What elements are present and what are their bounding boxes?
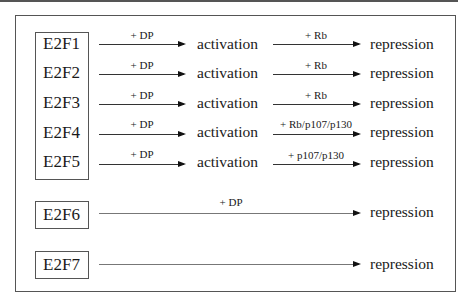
arrow-icon bbox=[99, 44, 184, 45]
arrow-icon bbox=[99, 213, 359, 214]
repression-label: repression bbox=[370, 94, 434, 112]
arrow-icon bbox=[99, 74, 184, 75]
arrow-icon bbox=[273, 134, 359, 135]
arrow-icon bbox=[99, 134, 184, 135]
step1-label: + DP bbox=[112, 148, 172, 160]
step1-label: + DP bbox=[112, 118, 172, 130]
activation-label: activation bbox=[197, 94, 258, 112]
repression-label: repression bbox=[370, 123, 434, 141]
repression-label: repression bbox=[370, 153, 434, 171]
arrow-icon bbox=[99, 264, 359, 265]
repression-label: repression bbox=[370, 203, 434, 221]
activation-label: activation bbox=[197, 64, 258, 82]
step2-label: + Rb/p107/p130 bbox=[270, 118, 362, 130]
step2-label: + Rb bbox=[273, 89, 359, 101]
step-label: + DP bbox=[200, 196, 262, 208]
activation-label: activation bbox=[197, 35, 258, 53]
gene-label-e2f2: E2F2 bbox=[35, 63, 88, 83]
repression-label: repression bbox=[370, 255, 434, 273]
step1-label: + DP bbox=[112, 89, 172, 101]
gene-label-e2f5: E2F5 bbox=[35, 152, 88, 172]
arrow-icon bbox=[273, 44, 359, 45]
gene-label-e2f7: E2F7 bbox=[35, 255, 88, 275]
gene-label-e2f3: E2F3 bbox=[35, 93, 88, 113]
arrow-icon bbox=[273, 104, 359, 105]
step2-label: + Rb bbox=[273, 29, 359, 41]
arrow-icon bbox=[273, 164, 359, 165]
step1-label: + DP bbox=[112, 29, 172, 41]
repression-label: repression bbox=[370, 35, 434, 53]
step2-label: + p107/p130 bbox=[273, 149, 359, 161]
top-rule bbox=[0, 0, 458, 2]
step1-label: + DP bbox=[112, 59, 172, 71]
repression-label: repression bbox=[370, 64, 434, 82]
activation-label: activation bbox=[197, 153, 258, 171]
activation-label: activation bbox=[197, 123, 258, 141]
gene-label-e2f6: E2F6 bbox=[35, 205, 88, 225]
arrow-icon bbox=[273, 74, 359, 75]
arrow-icon bbox=[99, 104, 184, 105]
step2-label: + Rb bbox=[273, 59, 359, 71]
gene-label-e2f4: E2F4 bbox=[35, 123, 88, 143]
arrow-icon bbox=[99, 164, 184, 165]
gene-label-e2f1: E2F1 bbox=[35, 34, 88, 54]
